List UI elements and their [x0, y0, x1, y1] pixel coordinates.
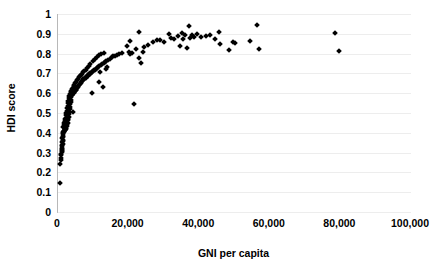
x-tick-label: 100,000	[391, 217, 429, 230]
gridline	[58, 172, 411, 173]
y-tick-label: 0.4	[36, 128, 51, 139]
data-point	[255, 22, 261, 28]
gridline	[58, 73, 411, 74]
x-tick-label: 0	[54, 217, 60, 230]
data-point	[218, 41, 224, 47]
y-tick-label: 0.6	[36, 88, 51, 99]
y-tick-label: 0.9	[36, 29, 51, 40]
data-point	[131, 101, 137, 107]
data-point	[145, 42, 151, 48]
data-point	[96, 79, 102, 85]
y-axis-tick-labels: 00.10.20.30.40.50.60.70.80.91	[20, 0, 54, 215]
x-tick-label: 40,000	[182, 217, 214, 230]
gridline	[58, 93, 411, 94]
data-point	[105, 64, 111, 70]
data-point	[184, 45, 190, 51]
y-tick-label: 1	[45, 9, 51, 20]
gridline	[58, 212, 411, 213]
data-point	[124, 43, 130, 49]
gridline	[58, 113, 411, 114]
y-tick-label: 0.8	[36, 48, 51, 59]
x-axis-tick-labels: 020,00040,00060,00080,000100,000	[0, 217, 448, 235]
plot-area	[57, 14, 411, 213]
y-tick-label: 0.7	[36, 68, 51, 79]
y-tick-label: 0.5	[36, 108, 51, 119]
y-axis-title-text: HDI score	[5, 83, 17, 132]
x-tick-label: 20,000	[112, 217, 144, 230]
data-point	[212, 36, 218, 42]
y-axis-title: HDI score	[0, 0, 22, 215]
x-tick-label: 80,000	[323, 217, 355, 230]
data-point	[128, 38, 134, 44]
data-point	[256, 47, 262, 53]
gridline	[58, 34, 411, 35]
gridline	[58, 133, 411, 134]
data-point	[57, 180, 63, 186]
scatter-chart: HDI score 00.10.20.30.40.50.60.70.80.91 …	[0, 0, 448, 277]
gridline	[58, 192, 411, 193]
data-point	[177, 44, 183, 50]
x-axis-title: GNI per capita	[57, 247, 410, 259]
data-point	[332, 30, 338, 36]
data-point	[226, 48, 232, 54]
data-point	[100, 84, 106, 90]
data-point	[133, 46, 139, 52]
gridline	[58, 14, 411, 15]
y-tick-label: 0.2	[36, 167, 51, 178]
data-point	[186, 23, 192, 29]
y-tick-label: 0	[45, 207, 51, 218]
data-point	[248, 38, 254, 44]
gridline	[58, 153, 411, 154]
y-tick-label: 0.3	[36, 147, 51, 158]
y-tick-label: 0.1	[36, 187, 51, 198]
x-tick-label: 60,000	[253, 217, 285, 230]
data-point	[89, 90, 95, 96]
